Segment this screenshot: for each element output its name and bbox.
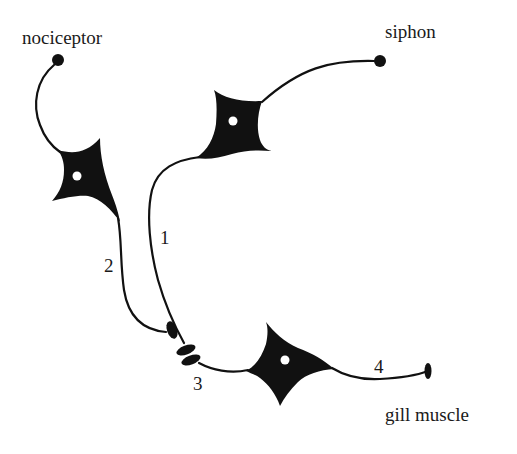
motor-neuron xyxy=(199,322,432,406)
motor-dendrite xyxy=(199,363,248,372)
motor-nucleus xyxy=(281,356,290,365)
siphon-axon-1 xyxy=(149,157,200,343)
nociceptor-label: nociceptor xyxy=(22,27,103,48)
siphon-dendrite xyxy=(262,61,374,102)
siphon-nucleus xyxy=(229,117,238,126)
siphon-receptor-terminal xyxy=(374,55,386,67)
neural-circuit-diagram: nociceptor siphon gill muscle 1 2 3 4 xyxy=(0,0,517,454)
pathway-number-2: 2 xyxy=(104,255,114,276)
nociceptor-nucleus xyxy=(73,172,82,181)
gill-muscle-label: gill muscle xyxy=(385,404,469,425)
pathway-number-4: 4 xyxy=(374,356,384,377)
nociceptor-cell-body xyxy=(52,138,120,222)
siphon-label: siphon xyxy=(385,21,436,42)
pathway-number-3: 3 xyxy=(193,373,203,394)
siphon-sensory-neuron xyxy=(149,55,386,343)
pathway-number-1: 1 xyxy=(160,227,170,248)
gill-muscle-terminal xyxy=(425,363,432,379)
nociceptor-dendrite xyxy=(36,65,60,152)
nociceptor-axon-2 xyxy=(118,218,166,332)
synapse-3 xyxy=(175,342,202,367)
nociceptor-neuron xyxy=(36,54,180,340)
motor-cell-body xyxy=(246,322,334,406)
